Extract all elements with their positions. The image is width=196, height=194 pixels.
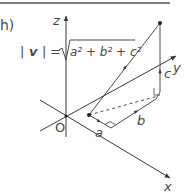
formula-bar-right: |: [42, 44, 46, 59]
z-axis-label: z: [52, 13, 61, 28]
formula-bar-left: |: [20, 44, 24, 59]
x-axis-label: x: [163, 179, 172, 194]
part-label: h): [0, 17, 14, 33]
edge-a-arrow: [97, 120, 99, 121]
edge-a-b: [89, 99, 156, 128]
right-angle-marker-ab: [105, 122, 115, 125]
edge-b-label: b: [137, 113, 145, 128]
magnitude-formula: | v | = a² + b² + c²: [20, 40, 142, 60]
origin-point: [65, 115, 68, 118]
formula-radicand: a² + b² + c²: [70, 45, 142, 59]
base-diagonal-dashed: [89, 96, 158, 115]
edge-c-label: c: [164, 66, 171, 81]
formula-vector-v: v: [29, 44, 38, 59]
edge-a-label: a: [95, 125, 103, 140]
vector-v: [89, 23, 160, 115]
start-point: [87, 113, 91, 117]
y-axis-label: y: [172, 60, 181, 75]
edge-b-to-corner: [156, 92, 160, 99]
formula-equals: =: [50, 44, 61, 59]
x-axis: [40, 100, 170, 178]
end-point: [158, 21, 162, 25]
vector-magnitude-diagram: h) z y x O a b c | v | = a² + b² + c²: [0, 0, 196, 194]
origin-label: O: [55, 120, 65, 135]
